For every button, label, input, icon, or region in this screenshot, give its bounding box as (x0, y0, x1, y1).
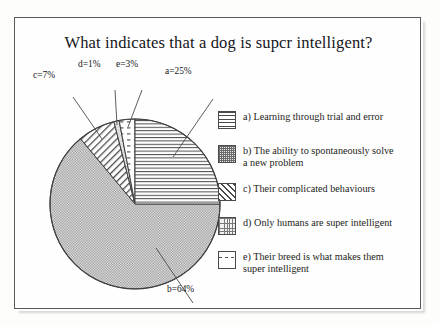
pie-label-d: d=1% (78, 59, 100, 69)
legend-label-e-line2: super intelligent (243, 263, 384, 275)
legend-item-a: a) Learning through trial and error (218, 110, 418, 132)
legend-label-b-line1: b) The ability to spontaneously solve (243, 145, 394, 156)
pie-label-a: a=25% (165, 66, 192, 76)
legend-label-b: b) The ability to spontaneously solve a … (243, 144, 394, 170)
legend-label-c-line1: c) Their complicated behaviours (243, 183, 375, 194)
legend-item-d: d) Only humans are super intelligent (218, 216, 418, 238)
diagonal-hatch-swatch-icon (218, 183, 236, 201)
dense-dots-swatch-icon (218, 145, 236, 163)
pie-slice-a (135, 119, 220, 204)
pie-label-b: b=64% (167, 284, 194, 294)
scanned-page: What indicates that a dog is supcr intel… (0, 0, 439, 326)
legend-label-e: e) Their breed is what makes them super … (243, 250, 384, 276)
legend-label-d: d) Only humans are super intelligent (243, 216, 392, 229)
legend-label-d-line1: d) Only humans are super intelligent (243, 217, 392, 228)
pie-label-c: c=7% (33, 70, 55, 80)
legend-label-a-line1: a) Learning through trial and error (243, 111, 383, 122)
legend-label-b-line2: a new problem (243, 157, 394, 169)
legend-item-b: b) The ability to spontaneously solve a … (218, 144, 418, 170)
leader-line-d (115, 90, 117, 125)
legend-label-e-line1: e) Their breed is what makes them (243, 251, 384, 262)
horizontal-lines-swatch-icon (218, 111, 236, 129)
legend-item-e: e) Their breed is what makes them super … (218, 250, 418, 276)
figure-frame: What indicates that a dog is supcr intel… (14, 17, 421, 309)
fine-dots-swatch-icon (218, 217, 236, 235)
legend-label-c: c) Their complicated behaviours (243, 182, 375, 195)
chart-legend: a) Learning through trial and error b) T… (218, 110, 418, 288)
dashes-swatch-icon (218, 251, 236, 269)
legend-label-a: a) Learning through trial and error (243, 110, 383, 123)
pie-label-e: e=3% (116, 59, 138, 69)
legend-item-c: c) Their complicated behaviours (218, 182, 418, 204)
